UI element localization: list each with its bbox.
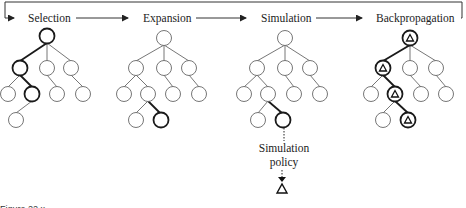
stage-label-simulation: Simulation <box>261 12 312 24</box>
simulated-node <box>276 113 291 128</box>
stage-label-expansion: Expansion <box>143 12 192 25</box>
selected-node <box>40 29 55 44</box>
mcts-diagram: Selection Expansion Simulation Backpropa… <box>0 0 466 208</box>
selected-node <box>13 61 28 76</box>
simulation-policy-label-line2: policy <box>270 156 299 169</box>
figure-caption: Figure 22.x <box>0 204 46 208</box>
selected-node <box>25 87 40 102</box>
tree-expansion <box>117 31 207 128</box>
tree-selection <box>1 29 91 128</box>
stage-label-backpropagation: Backpropagation <box>376 12 455 25</box>
tree-simulation: Simulation policy <box>237 31 328 194</box>
tree-backpropagation <box>364 31 454 128</box>
arrow-down-icon <box>278 177 286 182</box>
expanded-node <box>154 113 169 128</box>
stage-label-selection: Selection <box>28 12 71 24</box>
simulation-policy-label-line1: Simulation <box>259 142 310 154</box>
terminal-triangle-icon <box>277 184 287 193</box>
